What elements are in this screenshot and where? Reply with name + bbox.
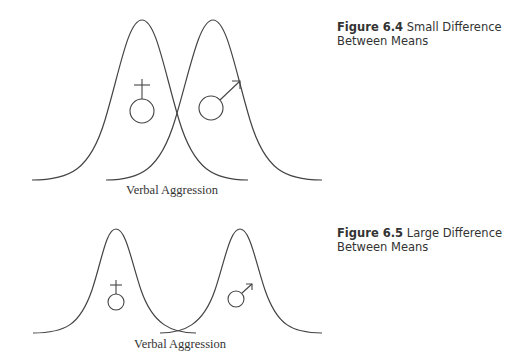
female-symbol-icon <box>130 79 154 123</box>
female-distribution-curve <box>33 229 196 333</box>
figure-title-line1: Small Difference <box>407 20 502 34</box>
figure-title-line1: Large Difference <box>407 226 502 240</box>
figure-caption: Figure 6.5 Large Difference Between Mean… <box>337 226 507 254</box>
x-axis-label: Verbal Aggression <box>134 337 226 352</box>
male-symbol-icon <box>199 81 240 120</box>
distribution-curves-large-difference <box>0 200 508 364</box>
x-axis-label: Verbal Aggression <box>126 183 218 198</box>
figure-title-line2: Between Means <box>337 240 428 254</box>
figure-number: Figure 6.5 <box>337 226 403 240</box>
male-symbol-icon <box>228 284 252 307</box>
figure-title-line2: Between Means <box>337 34 428 48</box>
female-symbol-icon <box>108 280 124 310</box>
male-distribution-curve <box>160 229 322 333</box>
figure-6-5: Verbal Aggression Figure 6.5 Large Diffe… <box>0 200 508 364</box>
figure-caption: Figure 6.4 Small Difference Between Mean… <box>337 20 507 48</box>
figure-6-4: Verbal Aggression Figure 6.4 Small Diffe… <box>0 0 508 200</box>
female-distribution-curve <box>32 20 248 180</box>
figure-number: Figure 6.4 <box>337 20 403 34</box>
